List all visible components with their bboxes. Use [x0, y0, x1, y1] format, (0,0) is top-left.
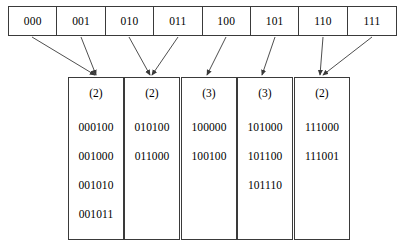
bucket-0-depth: (2) [69, 87, 123, 99]
bucket-4-depth: (2) [295, 87, 349, 99]
bucket-4-entries: 111000 111001 [295, 119, 349, 177]
bucket-4[interactable]: (2) 111000 111001 [294, 77, 350, 240]
arrow-010-to-bucket-1 [129, 37, 150, 75]
bucket-1-depth: (2) [125, 87, 179, 99]
directory-cell-101[interactable]: 101 [251, 7, 299, 35]
bucket-0[interactable]: (2) 000100 001000 001010 001011 [68, 77, 124, 240]
bucket-2[interactable]: (3) 100000 100100 [181, 77, 237, 240]
bucket-0-entries: 000100 001000 001010 001011 [69, 119, 123, 235]
bucket-3-depth: (3) [238, 87, 292, 99]
bucket-entry: 101000 [238, 119, 292, 148]
bucket-entry: 000100 [69, 119, 123, 148]
bucket-entry: 001000 [69, 148, 123, 177]
bucket-entry: 101100 [238, 148, 292, 177]
arrow-111-to-bucket-4 [323, 37, 372, 75]
bucket-entry: 010100 [125, 119, 179, 148]
directory-cell-111[interactable]: 111 [348, 7, 396, 35]
arrow-000-to-bucket-0 [32, 37, 95, 75]
arrow-001-to-bucket-0 [81, 37, 96, 75]
directory-cell-000[interactable]: 000 [9, 7, 57, 35]
arrow-100-to-bucket-2 [207, 37, 226, 75]
bucket-2-depth: (3) [182, 87, 236, 99]
directory-cell-011[interactable]: 011 [154, 7, 202, 35]
directory: 000 001 010 011 100 101 110 111 [8, 6, 397, 36]
directory-cell-010[interactable]: 010 [106, 7, 154, 35]
directory-cell-100[interactable]: 100 [203, 7, 251, 35]
bucket-entry: 001010 [69, 177, 123, 206]
directory-cell-001[interactable]: 001 [57, 7, 105, 35]
bucket-1[interactable]: (2) 010100 011000 [124, 77, 180, 240]
bucket-entry: 100100 [182, 148, 236, 177]
bucket-entry: 011000 [125, 148, 179, 177]
bucket-entry: 101110 [238, 177, 292, 206]
hash-directory-diagram: 000 001 010 011 100 101 110 111 (2) 0001… [0, 0, 403, 248]
arrow-011-to-bucket-1 [152, 37, 178, 75]
arrow-101-to-bucket-3 [262, 37, 275, 75]
bucket-3-entries: 101000 101100 101110 [238, 119, 292, 206]
bucket-entry: 001011 [69, 206, 123, 235]
bucket-entry: 111001 [295, 148, 349, 177]
bucket-1-entries: 010100 011000 [125, 119, 179, 177]
arrow-110-to-bucket-4 [320, 37, 323, 75]
bucket-3[interactable]: (3) 101000 101100 101110 [237, 77, 293, 240]
bucket-entry: 100000 [182, 119, 236, 148]
bucket-2-entries: 100000 100100 [182, 119, 236, 177]
bucket-entry: 111000 [295, 119, 349, 148]
directory-cell-110[interactable]: 110 [299, 7, 347, 35]
